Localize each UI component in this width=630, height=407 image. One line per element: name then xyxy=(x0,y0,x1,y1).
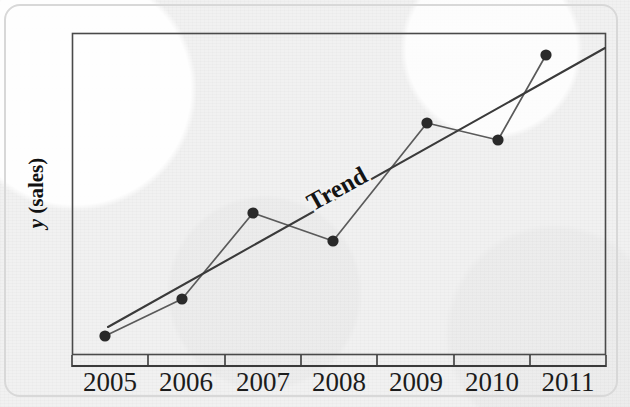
data-point-2008 xyxy=(327,235,338,246)
data-point-2007 xyxy=(247,207,258,218)
x-tick-label-2007: 2007 xyxy=(236,367,290,397)
data-point-2011 xyxy=(540,49,551,60)
y-axis-variable: y xyxy=(24,218,48,231)
x-tick-label-2006: 2006 xyxy=(159,367,213,397)
x-tick-label-2011: 2011 xyxy=(542,367,595,397)
x-axis-tick-labels: 2005 2006 2007 2008 2009 2010 2011 xyxy=(83,367,595,397)
data-point-2005 xyxy=(99,330,110,341)
figure-page: 2005 2006 2007 2008 2009 2010 2011 y (sa… xyxy=(0,0,630,407)
x-tick-label-2010: 2010 xyxy=(465,367,519,397)
trend-annotation-label: Trend xyxy=(302,161,371,216)
data-point-2010 xyxy=(492,134,503,145)
x-tick-label-2009: 2009 xyxy=(389,367,443,397)
data-point-2006 xyxy=(176,293,187,304)
trend-annotation: Trend xyxy=(302,161,371,216)
svg-text:y (sales): y (sales) xyxy=(24,158,48,232)
x-tick-label-2008: 2008 xyxy=(312,367,366,397)
x-tick-label-2005: 2005 xyxy=(83,367,137,397)
y-axis-unit: (sales) xyxy=(24,158,48,219)
data-point-2009 xyxy=(421,117,432,128)
line-chart: 2005 2006 2007 2008 2009 2010 2011 y (sa… xyxy=(0,0,630,407)
y-axis-title: y (sales) xyxy=(24,158,48,232)
